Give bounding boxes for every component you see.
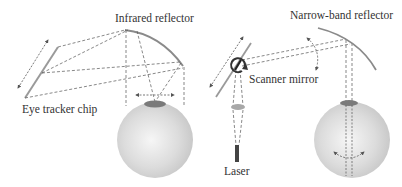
right-panel [210, 28, 390, 178]
right-pupil [340, 100, 358, 106]
left-eyeball [117, 102, 193, 178]
label-laser: Laser [224, 166, 250, 178]
label-narrow-band-reflector: Narrow-band reflector [290, 10, 393, 22]
left-pupil [144, 101, 166, 108]
laser-source [235, 145, 239, 162]
eye-tracker-chip [25, 47, 58, 98]
scan-angle-arrow-icon [307, 38, 318, 70]
label-scanner-mirror: Scanner mirror [249, 74, 318, 86]
infrared-reflector [125, 30, 183, 66]
lens [231, 104, 245, 110]
label-eye-tracker-chip: Eye tracker chip [22, 104, 97, 116]
diagram-canvas [0, 0, 402, 187]
left-rays [25, 30, 184, 106]
label-infrared-reflector: Infrared reflector [115, 13, 194, 25]
chip-motion-arrow-icon [18, 40, 48, 88]
